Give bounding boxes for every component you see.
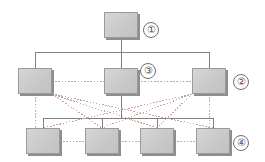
mesh-l-to-n2 [52,94,102,128]
tier-4-label: ④ [233,135,249,151]
node-tier2-left[interactable] [18,68,52,94]
node-tier4-2[interactable] [85,128,119,154]
node-tier4-1-face [27,129,59,153]
node-tier2-center[interactable] [104,68,138,94]
node-tier1-root[interactable] [104,12,138,38]
node-tier4-4[interactable] [196,128,230,154]
node-tier2-right[interactable] [192,68,226,94]
node-tier2-left-face [19,69,51,93]
node-tier4-2-face [86,129,118,153]
mesh-r-to-n1 [43,94,192,128]
node-tier1-root-face [105,13,137,37]
node-tier4-3[interactable] [140,128,174,154]
tier-2-label: ② [233,74,249,90]
node-tier4-4-face [197,129,229,153]
diagram-canvas: ①②③④ [0,0,265,162]
tier-1-label: ① [143,22,159,38]
node-tier4-1[interactable] [26,128,60,154]
node-tier2-center-face [105,69,137,93]
mesh-l-to-n3 [52,94,157,128]
node-tier2-right-face [193,69,225,93]
node-tier4-3-face [141,129,173,153]
tier-3-label: ③ [140,63,156,79]
